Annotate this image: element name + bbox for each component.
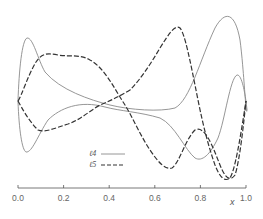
chart: ℓ4 ℓ5 0.0 0.2 0.4 0.6 0.8 1.0 x: [0, 0, 263, 219]
x-tick-label: 0.4: [103, 193, 115, 203]
series-l4-a-line: [18, 16, 247, 111]
x-tick-label: 1.0: [240, 193, 252, 203]
x-tick-label: 0.2: [58, 193, 70, 203]
x-tick-label: 0.6: [149, 193, 161, 203]
legend: ℓ4 ℓ5: [89, 149, 125, 169]
legend-label-l4: ℓ4: [89, 149, 96, 158]
x-tick-label: 0.8: [194, 193, 206, 203]
x-axis: 0.0 0.2 0.4 0.6 0.8 1.0 x: [12, 185, 252, 207]
plot-area: [18, 16, 247, 179]
x-axis-title: x: [229, 197, 235, 207]
legend-label-l5: ℓ5: [89, 160, 96, 169]
x-tick-label: 0.0: [12, 193, 24, 203]
series-l5-b-line: [18, 27, 246, 179]
